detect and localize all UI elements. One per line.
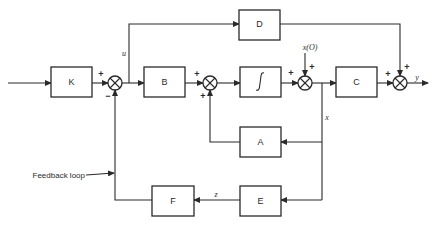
summing-junction-3: [298, 76, 312, 90]
a-to-sum2-path: [210, 90, 240, 142]
block-d-label: D: [256, 19, 263, 29]
summing-junction-4: [393, 76, 407, 90]
sum2-plus-left: +: [194, 69, 199, 79]
sum3-plus-left: +: [288, 68, 293, 78]
block-k: K: [51, 67, 92, 97]
block-c-label: C: [353, 77, 360, 87]
feedback-pointer-arrow: [86, 173, 114, 175]
block-e-label: E: [257, 196, 263, 206]
sum4-plus-top: +: [404, 62, 409, 72]
summing-junction-1: [108, 76, 122, 90]
sum2-plus-bottom: +: [200, 91, 205, 101]
block-diagram: K + − u D B + + + +: [0, 0, 438, 229]
block-a-label: A: [257, 137, 263, 147]
sum1-minus-sign: −: [105, 91, 110, 101]
sum1-plus-sign: +: [98, 69, 103, 79]
summing-junction-2: [203, 76, 217, 90]
block-b-label: B: [161, 77, 167, 87]
signal-z-label: z: [213, 190, 218, 199]
f-to-sum1-feedback-path: [115, 90, 152, 200]
signal-y-label: y: [414, 73, 419, 82]
sum3-plus-top: +: [309, 62, 314, 72]
signal-x-label: x: [324, 113, 329, 122]
block-k-label: K: [68, 77, 74, 87]
signal-x0-label: x(O): [302, 43, 318, 52]
block-a: A: [240, 127, 281, 157]
block-integrator: [240, 67, 281, 97]
block-e: E: [240, 186, 281, 216]
block-f: F: [152, 186, 194, 216]
block-b: B: [144, 67, 185, 97]
signal-u-label: u: [122, 49, 126, 58]
sum4-plus-left: +: [385, 69, 390, 79]
block-f-label: F: [170, 196, 176, 206]
block-d: D: [239, 10, 280, 40]
feedback-loop-label: Feedback loop: [33, 171, 86, 180]
block-c: C: [336, 67, 377, 97]
